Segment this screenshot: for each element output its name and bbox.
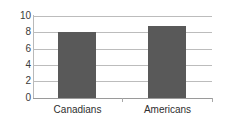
bar-americans — [148, 26, 186, 98]
plot-area — [33, 16, 212, 98]
bar-chart: 10 8 6 4 2 0 Canadians Americans — [0, 0, 225, 129]
bar-canadians — [58, 32, 96, 98]
x-axis-center-tick — [122, 98, 123, 102]
gridline-10 — [33, 16, 212, 17]
y-tick-label-2: 2 — [5, 76, 31, 86]
x-axis-end-tick — [212, 98, 213, 102]
y-tick-label-6: 6 — [5, 44, 31, 54]
x-axis-line — [33, 98, 213, 99]
y-tick-label-8: 8 — [5, 27, 31, 37]
y-tick-label-10: 10 — [5, 11, 31, 21]
y-tick-label-0: 0 — [5, 93, 31, 103]
y-tick-label-4: 4 — [5, 60, 31, 70]
y-axis-tick-labels: 10 8 6 4 2 0 — [0, 0, 31, 129]
x-category-label-americans: Americans — [122, 104, 213, 116]
x-category-label-canadians: Canadians — [33, 104, 122, 116]
